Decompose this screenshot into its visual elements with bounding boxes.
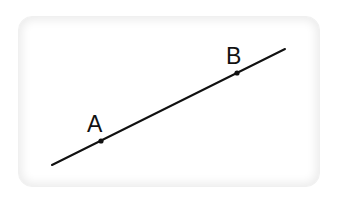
point-b <box>234 70 239 75</box>
point-a <box>98 138 103 143</box>
line-ab <box>52 49 285 165</box>
point-b-label: B <box>226 43 241 69</box>
point-a-label: A <box>87 111 103 137</box>
line-diagram: A B <box>0 0 337 197</box>
